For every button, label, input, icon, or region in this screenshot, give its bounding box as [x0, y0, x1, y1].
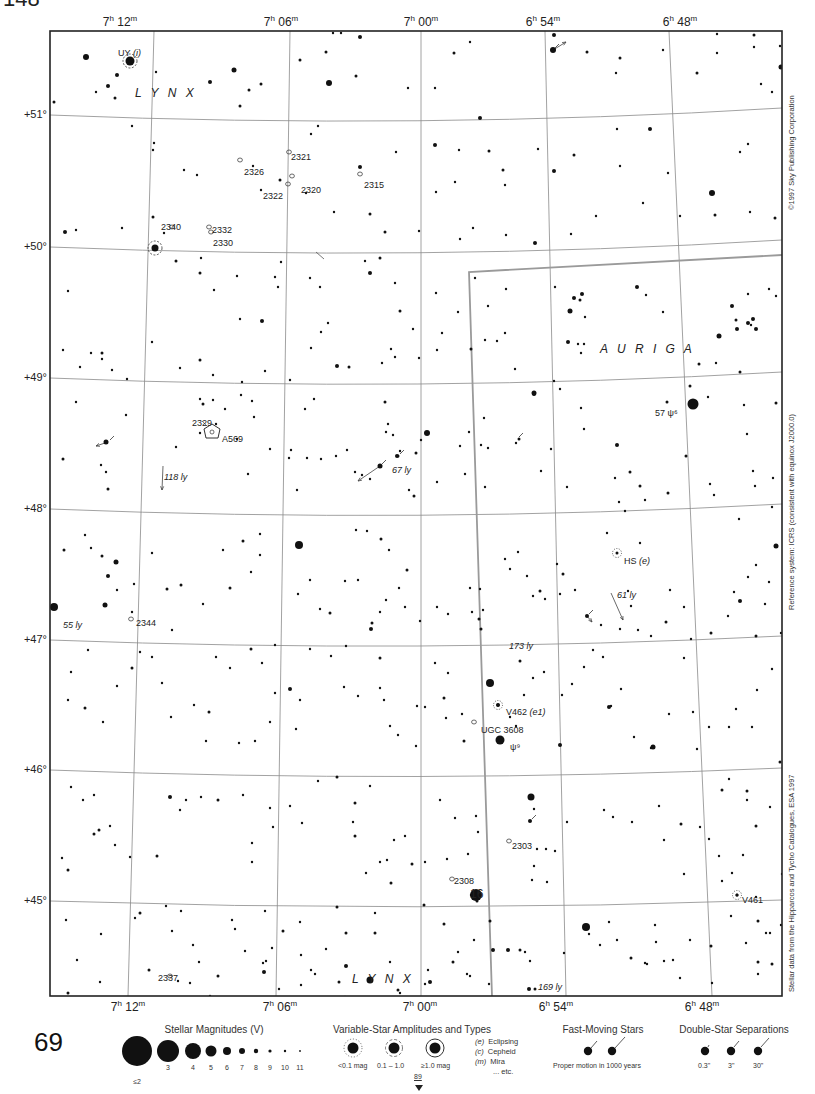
- star: [580, 407, 582, 409]
- star: [269, 448, 271, 450]
- star: [345, 932, 348, 935]
- constellation-name: A U R I G A: [600, 342, 695, 356]
- legend-double-sep-3: 30": [753, 1062, 763, 1069]
- star: [61, 857, 63, 859]
- star: [618, 501, 620, 503]
- star: [420, 439, 422, 441]
- star: [619, 57, 622, 60]
- star: [260, 189, 262, 191]
- star: [583, 343, 585, 345]
- star: [180, 910, 182, 912]
- star: [768, 288, 770, 290]
- star: [713, 494, 715, 496]
- star: [603, 809, 605, 811]
- star: [153, 142, 155, 144]
- star: [385, 599, 387, 601]
- star: [300, 954, 302, 956]
- star: [519, 949, 522, 952]
- star: [755, 635, 758, 638]
- star: [473, 939, 475, 941]
- star: [434, 87, 436, 89]
- legend-magnitude-label: 11: [296, 1064, 303, 1071]
- star: [454, 181, 456, 183]
- star: [491, 948, 495, 952]
- star: [368, 271, 372, 275]
- star: [100, 464, 102, 466]
- star: [443, 923, 446, 926]
- star: [297, 593, 299, 595]
- object-label: 2308: [454, 876, 474, 886]
- star: [264, 910, 266, 912]
- star: [310, 347, 312, 349]
- star: [559, 388, 561, 390]
- star: [639, 542, 641, 544]
- star: [580, 292, 584, 296]
- star: [319, 608, 321, 610]
- star: [161, 682, 163, 684]
- star: [707, 396, 709, 398]
- star: [388, 549, 390, 551]
- star: [453, 52, 456, 55]
- star: [644, 499, 646, 501]
- star: [398, 587, 400, 589]
- star: [663, 960, 665, 962]
- star: [320, 331, 322, 333]
- star: [469, 41, 471, 43]
- star: [165, 905, 167, 907]
- star: [116, 589, 118, 591]
- next-chart-link[interactable]: 89: [414, 1073, 422, 1080]
- stars: [50, 32, 784, 1006]
- star: [131, 667, 134, 670]
- star: [616, 939, 618, 941]
- star: [506, 948, 510, 952]
- star: [566, 340, 570, 344]
- star: [364, 260, 366, 262]
- star: [533, 865, 535, 867]
- star: [317, 780, 319, 782]
- star: [543, 671, 545, 673]
- star: [90, 547, 92, 549]
- star-chart[interactable]: [0, 0, 815, 1094]
- star: [708, 838, 710, 840]
- star: [101, 555, 104, 558]
- star: [608, 921, 610, 923]
- star: [502, 169, 505, 172]
- star: [151, 341, 153, 343]
- star: [394, 282, 396, 284]
- star: [306, 457, 308, 459]
- star: [325, 948, 327, 950]
- star: [683, 606, 685, 608]
- star: [646, 963, 648, 965]
- star: [733, 591, 735, 593]
- star: [568, 309, 573, 314]
- star: [418, 230, 420, 232]
- star: [480, 628, 483, 631]
- star: [427, 969, 429, 971]
- star: [721, 789, 724, 792]
- star: [379, 257, 382, 260]
- star: [528, 819, 532, 823]
- star: [247, 473, 249, 475]
- star: [553, 380, 555, 382]
- star: [299, 59, 302, 62]
- star: [526, 575, 528, 577]
- star: [532, 677, 534, 679]
- star: [552, 169, 556, 173]
- star: [390, 348, 392, 350]
- star: [179, 809, 181, 811]
- star: [171, 629, 173, 631]
- star: [116, 685, 118, 687]
- star: [692, 711, 694, 713]
- star: [447, 613, 449, 615]
- star: [698, 363, 701, 366]
- star: [212, 399, 214, 401]
- star: [772, 477, 774, 479]
- star: [580, 352, 582, 354]
- star: [537, 148, 539, 150]
- star: [390, 882, 393, 885]
- star: [309, 648, 311, 650]
- star: [739, 151, 741, 153]
- star: [139, 651, 141, 653]
- star: [129, 856, 131, 858]
- star: [504, 558, 506, 560]
